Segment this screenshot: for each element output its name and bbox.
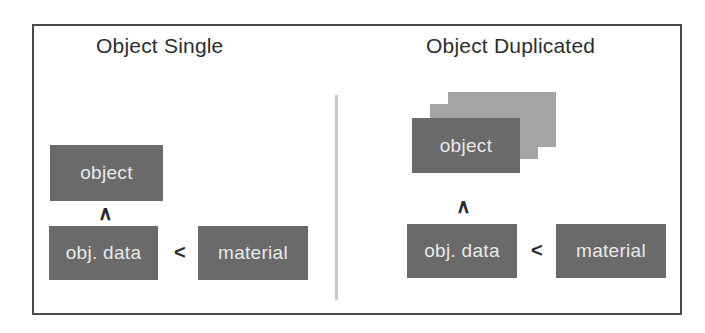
panel-title-object-single: Object Single <box>96 34 224 58</box>
node-material-left[interactable]: material <box>198 226 308 280</box>
relation-caret-left-icon: ∧ <box>98 203 113 223</box>
node-obj-data-right[interactable]: obj. data <box>407 224 517 278</box>
relation-caret-right-icon: ∧ <box>456 196 471 216</box>
diagram-figure: Object Single Object Duplicated object ∧… <box>0 0 705 333</box>
relation-less-than-right-icon: < <box>531 240 543 260</box>
node-obj-data-left[interactable]: obj. data <box>49 226 158 280</box>
panel-title-object-duplicated: Object Duplicated <box>426 34 595 58</box>
node-object-left[interactable]: object <box>50 145 163 201</box>
panel-divider <box>335 95 338 300</box>
node-material-right[interactable]: material <box>556 224 666 278</box>
node-object-right[interactable]: object <box>412 118 520 173</box>
relation-less-than-left-icon: < <box>174 242 186 262</box>
